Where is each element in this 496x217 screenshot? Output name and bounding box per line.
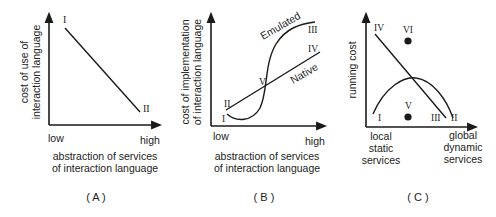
svg-text:services: services [444, 153, 483, 165]
y-axis-label-b: cost of implementation of interaction la… [179, 19, 203, 125]
point-label-iii-c: III [431, 113, 441, 123]
point-label-iv-c: IV [374, 23, 384, 33]
point-label-vi-c: VI [403, 25, 413, 35]
caption-a: ( A ) [86, 191, 106, 203]
point-label-ii-c: II [451, 113, 457, 123]
svg-text:static: static [369, 142, 394, 154]
caption-c: ( C ) [407, 191, 428, 203]
svg-text:of interaction language: of interaction language [191, 19, 203, 125]
point-label-iv-b: IV [308, 44, 318, 54]
point-label-ii: II [143, 103, 150, 114]
svg-text:cost of implementation: cost of implementation [179, 19, 191, 124]
y-axis-label-a: cost of use of interaction language [18, 25, 42, 120]
native-line [226, 52, 320, 110]
svg-text:cost of use of: cost of use of [18, 41, 30, 104]
point-label-v-c: V [405, 101, 412, 111]
caption-b: ( B ) [254, 191, 275, 203]
svg-text:interaction language: interaction language [30, 25, 42, 120]
panel-a: I II cost of use of interaction language… [18, 14, 160, 203]
native-label: Native [288, 60, 320, 85]
point-v-dot [404, 113, 411, 120]
cost-line-a [65, 28, 140, 112]
x-tick-low-b: low [213, 130, 229, 142]
svg-text:running cost: running cost [346, 41, 358, 98]
x-axis-label-b-2: of interaction language [214, 162, 320, 174]
svg-text:services: services [362, 154, 401, 166]
figure: I II cost of use of interaction language… [0, 0, 496, 217]
svg-text:dynamic: dynamic [443, 141, 482, 153]
point-label-ii-b: II [224, 99, 230, 109]
panel-c: IV VI V I III II running cost local stat… [346, 14, 483, 203]
svg-text:local: local [370, 130, 392, 142]
point-label-iii-b: III [308, 25, 318, 35]
x-tick-high-b: high [305, 135, 325, 147]
x-axis-label-a-2: of interaction language [52, 162, 158, 174]
point-label-i: I [63, 14, 66, 25]
x-axis-label-a-1: abstraction of services [53, 150, 157, 162]
emulated-label: Emulated [258, 9, 303, 42]
point-label-i-c: I [378, 113, 381, 123]
point-label-i-b: I [222, 114, 225, 124]
x-tick-high-a: high [140, 134, 160, 146]
y-axis-label-c: running cost [346, 41, 358, 98]
point-vi-dot [404, 37, 411, 44]
x-tick-high-c: global dynamic services [443, 129, 482, 165]
x-axis-label-b-1: abstraction of services [215, 150, 319, 162]
point-label-v-b: V [259, 77, 266, 87]
svg-text:global: global [449, 129, 477, 141]
x-tick-low-c: local static services [362, 130, 401, 166]
panel-b: Emulated Native I II III IV V cost of im… [179, 9, 325, 203]
x-tick-low-a: low [48, 132, 64, 144]
